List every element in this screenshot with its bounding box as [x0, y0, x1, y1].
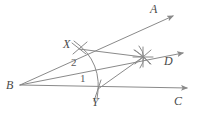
segment-y-to-intersection: [98, 57, 143, 89]
geometry-figure: B A D C X Y 2 1: [0, 0, 203, 122]
point-label-y: Y: [92, 96, 99, 108]
point-label-c: C: [174, 95, 182, 107]
point-label-a: A: [150, 3, 157, 15]
point-label-x: X: [63, 38, 70, 50]
tick-mark-x-b: [73, 42, 87, 54]
point-label-d: D: [164, 55, 173, 67]
angle-label-2: 2: [71, 57, 77, 68]
point-label-b: B: [6, 79, 13, 91]
angle-label-1: 1: [80, 73, 86, 84]
ray-bd-bisector: [20, 53, 183, 85]
